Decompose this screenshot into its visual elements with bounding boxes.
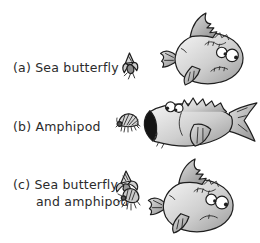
label-a: (a) Sea butterfly — [13, 60, 119, 76]
label-c-text-line1: (c) Sea butterfly — [13, 177, 118, 192]
label-b-text: (b) Amphipod — [13, 119, 101, 134]
fish-turning-away-icon — [148, 159, 236, 234]
sea-butterfly-icon — [122, 53, 139, 80]
fish-dorsal-spikes — [180, 98, 226, 112]
label-a-text: (a) Sea butterfly — [13, 60, 119, 75]
fish-dorsal-fin — [190, 13, 217, 38]
fish-tail-fin — [229, 103, 257, 141]
label-c-line1: (c) Sea butterfly — [13, 177, 118, 193]
amphipod-part — [118, 189, 140, 210]
fish-dorsal-fin — [179, 159, 206, 184]
sea-butterfly-and-amphipod-icon — [115, 171, 143, 213]
fish-mouth-open-icon — [136, 96, 260, 151]
label-b: (b) Amphipod — [13, 119, 101, 135]
fish-turning-away-icon — [160, 13, 246, 86]
predation-figure: (a) Sea butterfly — [0, 0, 260, 243]
